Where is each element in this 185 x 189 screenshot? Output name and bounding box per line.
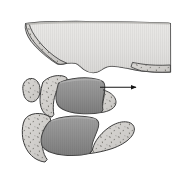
- figure-root: Type III: [0, 0, 185, 189]
- structure-facet-fragment: [23, 78, 40, 101]
- lower-body-hatch: [41, 116, 99, 156]
- anatomical-illustration: [0, 0, 185, 189]
- middle-body-hatch: [56, 78, 105, 114]
